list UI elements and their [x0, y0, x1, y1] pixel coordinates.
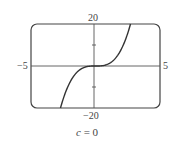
y-min-label: −20 [83, 111, 99, 121]
x-min-label: −5 [17, 61, 28, 71]
caption: c = 0 [76, 126, 98, 138]
x-max-label: 5 [163, 61, 168, 71]
y-max-label: 20 [88, 13, 98, 23]
caption-eq: = 0 [81, 126, 98, 138]
cubic-plot [0, 0, 174, 144]
